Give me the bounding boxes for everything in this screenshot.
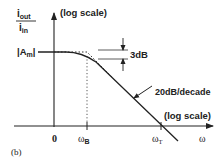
y-axis-label: iout iin (16, 8, 36, 34)
slope-arrow (134, 86, 152, 98)
3db-label: 3dB (130, 49, 148, 60)
frequency-response-diagram: iout iin (log scale) |Am| 3dB 20dB/decad… (0, 0, 221, 163)
y-axis-scale-note: (log scale) (60, 7, 107, 18)
am-level-label: |Am| (17, 46, 35, 58)
x-axis-scale-note: (log scale) (164, 110, 211, 121)
figure-label: (b) (11, 147, 22, 157)
svg-text:iout: iout (17, 8, 31, 20)
slope-label: 20dB/decade (155, 87, 211, 97)
tick-label-omega-t: ωT (152, 133, 163, 145)
tick-label-omega-b: ωB (78, 133, 90, 145)
svg-text:iin: iin (19, 22, 28, 34)
x-axis-symbol: ω (199, 133, 206, 144)
tick-label-zero: 0 (52, 133, 57, 144)
